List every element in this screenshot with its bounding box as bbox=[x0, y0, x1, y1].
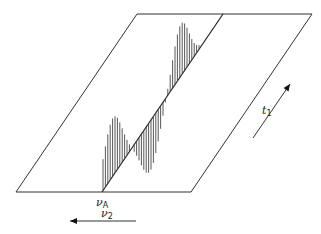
label-v2: ν2 bbox=[101, 207, 113, 221]
v2-arrow-head-icon bbox=[70, 218, 77, 224]
plane-outline bbox=[16, 14, 312, 192]
t1-arrow-head-icon bbox=[284, 84, 290, 91]
label-t1: t1 bbox=[262, 104, 272, 118]
nmr-diagram: νA ν2 t1 bbox=[0, 0, 321, 234]
signal-trace-hatching bbox=[103, 23, 199, 191]
